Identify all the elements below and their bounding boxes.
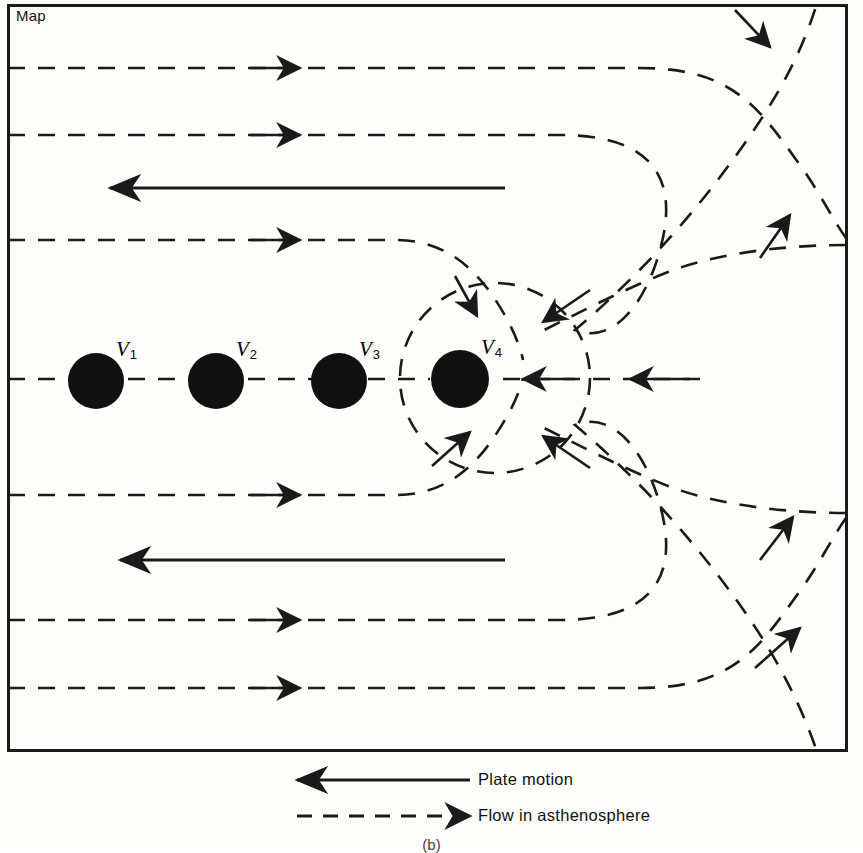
streamline-arrowheads-lower-curved — [432, 432, 800, 668]
streamline-upper-1 — [8, 68, 846, 238]
streamline-lower-3 — [8, 518, 846, 688]
streamline-upper-right-inflow — [540, 245, 846, 332]
map-label: Map — [16, 7, 46, 24]
volcano-label-V2: V2 — [236, 337, 257, 362]
flow-arrow-u2-up — [760, 215, 790, 258]
flow-arrow-u3-down — [455, 276, 477, 316]
flow-arrow-l2-up — [760, 517, 793, 560]
volcano-label-V3: V3 — [359, 337, 380, 362]
flow-arrow-inflow-upper-diag — [543, 290, 590, 322]
streamline-group-upper — [8, 0, 846, 360]
volcano-label-V1: V1 — [116, 337, 137, 362]
streamline-lower-2 — [8, 422, 818, 755]
volcano-label-V4: V4 — [481, 335, 502, 360]
streamline-arrowheads-upper-curved — [455, 10, 790, 322]
streamline-group-lower-right-inflow — [540, 426, 846, 513]
flow-arrow-u1-exit — [735, 10, 770, 47]
streamline-arrowheads-lower-left — [250, 495, 300, 688]
streamline-group-upper-right-inflow — [540, 245, 846, 332]
figure-caption: (b) — [0, 836, 863, 853]
legend-label-plate-motion: Plate motion — [478, 770, 573, 789]
streamline-upper-2 — [8, 0, 818, 333]
streamline-upper-3 — [8, 240, 523, 360]
streamline-group-lower — [8, 378, 846, 755]
legend-symbols — [297, 780, 470, 816]
streamline-arrowheads-upper-left — [250, 68, 300, 240]
streamline-lower-right-inflow — [540, 426, 846, 513]
legend-label-asthenosphere-flow: Flow in asthenosphere — [478, 806, 650, 825]
